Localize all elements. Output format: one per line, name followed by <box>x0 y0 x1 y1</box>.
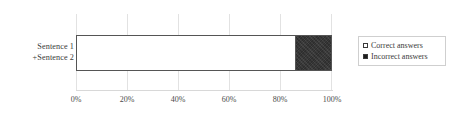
stacked-bar-chart: Sentence 1 +Sentence 2 0% 20% 40% 60% 80… <box>0 0 453 117</box>
x-tick-label-20: 20% <box>112 95 142 104</box>
x-tick-label-40: 40% <box>163 95 193 104</box>
open-square-marker-icon <box>363 43 368 48</box>
x-axis-line <box>76 90 333 91</box>
x-tick-label-60: 60% <box>214 95 244 104</box>
legend-label-incorrect-answers: Incorrect answers <box>371 51 428 62</box>
bar-segment-correct-answers <box>77 36 295 70</box>
chart-legend: Correct answers Incorrect answers <box>358 36 446 66</box>
x-tick-label-100: 100% <box>317 95 347 104</box>
x-tick-label-0: 0% <box>61 95 91 104</box>
bar-sentence-1-sentence-2 <box>76 35 332 71</box>
x-tick-label-80: 80% <box>265 95 295 104</box>
legend-item-incorrect-answers: Incorrect answers <box>363 51 442 62</box>
category-label-line-2: +Sentence 2 <box>6 52 74 63</box>
category-label: Sentence 1 +Sentence 2 <box>6 41 74 63</box>
bar-segment-incorrect-answers <box>295 36 331 70</box>
legend-label-correct-answers: Correct answers <box>371 40 423 51</box>
filled-square-marker-icon <box>363 54 368 59</box>
category-label-line-1: Sentence 1 <box>37 42 74 51</box>
legend-item-correct-answers: Correct answers <box>363 40 442 51</box>
